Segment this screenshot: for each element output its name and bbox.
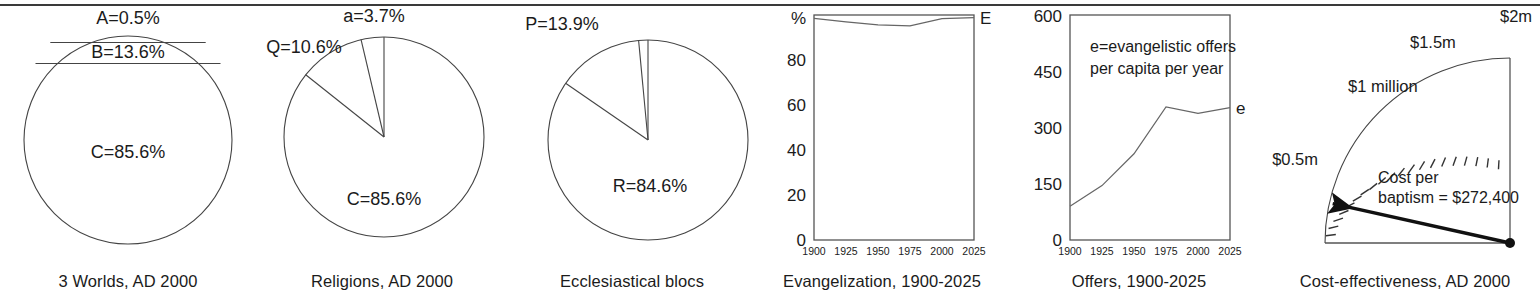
y-tick-80: 80 <box>787 51 806 70</box>
y-tick-20: 20 <box>787 186 806 205</box>
gauge-label-0-5m: $0.5m <box>1272 150 1318 168</box>
three-worlds-diagram: A=0.5% B=13.6% C=85.6% <box>0 0 256 270</box>
caption-offers: Offers, 1900-2025 <box>1008 272 1270 291</box>
panel-three-worlds: A=0.5% B=13.6% C=85.6% 3 Worlds, AD 2000 <box>0 0 256 301</box>
x-tick-1975: 1975 <box>1154 245 1178 257</box>
three-worlds-circle <box>24 36 232 244</box>
x-tick-1950: 1950 <box>866 245 890 257</box>
evangelization-series-line <box>814 18 974 26</box>
y-tick-40: 40 <box>787 141 806 160</box>
note-line-2: per capita per year <box>1090 60 1224 77</box>
label-q: Q=10.6% <box>266 37 342 57</box>
gauge-label-1-5m: $1.5m <box>1410 33 1456 51</box>
label-b: B=13.6% <box>91 42 165 62</box>
caption-religions: Religions, AD 2000 <box>256 272 508 291</box>
x-tick-2000: 2000 <box>930 245 954 257</box>
series-label-e: e <box>1236 99 1245 118</box>
cost-effectiveness-gauge: $0.5m $1 million $1.5m $2m Cost per bapt… <box>1270 0 1540 270</box>
label-a: a=3.7% <box>343 6 405 26</box>
x-tick-1950: 1950 <box>1122 245 1146 257</box>
y-tick-60: 60 <box>787 96 806 115</box>
gauge-label-1-million: $1 million <box>1348 77 1418 95</box>
slice-divider-thin-p <box>639 40 648 140</box>
x-tick-2025: 2025 <box>962 245 986 257</box>
y-axis-unit: % <box>791 9 806 28</box>
gauge-pivot-dot <box>1505 238 1515 248</box>
panel-offers: 600 450 300 150 0 e=evangelistic offers … <box>1008 0 1270 301</box>
caption-evangelization: Evangelization, 1900-2025 <box>756 272 1008 291</box>
note-line-1: e=evangelistic offers <box>1090 38 1236 55</box>
offers-series-line <box>1070 107 1230 206</box>
cost-readout-line-1: Cost per <box>1378 169 1439 186</box>
panel-religions: a=3.7% Q=10.6% C=85.6% Religions, AD 200… <box>256 0 508 301</box>
label-r: R=84.6% <box>613 176 688 196</box>
slice-divider-q-c <box>306 75 384 137</box>
offers-line-chart: 600 450 300 150 0 e=evangelistic offers … <box>1008 0 1270 270</box>
x-tick-1900: 1900 <box>802 245 826 257</box>
x-tick-1925: 1925 <box>1090 245 1114 257</box>
caption-eccl-blocs: Ecclesiastical blocs <box>508 272 756 291</box>
panel-cost-effectiveness: $0.5m $1 million $1.5m $2m Cost per bapt… <box>1270 0 1540 301</box>
figure-root: A=0.5% B=13.6% C=85.6% 3 Worlds, AD 2000… <box>0 0 1540 301</box>
label-p: P=13.9% <box>525 14 599 34</box>
plot-frame <box>814 15 974 240</box>
x-tick-2000: 2000 <box>1186 245 1210 257</box>
evangelization-line-chart: % 0 20 40 60 80 E 1900 1925 1950 1975 20… <box>756 0 1008 270</box>
gauge-needle <box>1333 204 1510 243</box>
slice-divider-p-r <box>566 83 648 140</box>
caption-cost: Cost-effectiveness, AD 2000 <box>1270 272 1540 291</box>
slice-divider-a-q <box>361 39 384 137</box>
x-tick-1975: 1975 <box>898 245 922 257</box>
series-label-E: E <box>980 9 991 28</box>
caption-three-worlds: 3 Worlds, AD 2000 <box>0 272 256 291</box>
panel-ecclesiastical-blocs: P=13.9% R=84.6% Ecclesiastical blocs <box>508 0 756 301</box>
label-c: C=85.6% <box>347 189 422 209</box>
cost-readout-line-2: baptism = $272,400 <box>1378 189 1519 206</box>
gauge-label-2m: $2m <box>1500 7 1532 25</box>
panel-evangelization: % 0 20 40 60 80 E 1900 1925 1950 1975 20… <box>756 0 1008 301</box>
y-tick-450: 450 <box>1034 63 1062 82</box>
x-tick-2025: 2025 <box>1218 245 1242 257</box>
y-tick-150: 150 <box>1034 175 1062 194</box>
eccl-blocs-pie: P=13.9% R=84.6% <box>508 0 756 270</box>
religions-pie: a=3.7% Q=10.6% C=85.6% <box>256 0 508 270</box>
x-tick-1900: 1900 <box>1058 245 1082 257</box>
y-tick-600: 600 <box>1034 7 1062 26</box>
label-c: C=85.6% <box>91 142 166 162</box>
y-tick-300: 300 <box>1034 119 1062 138</box>
x-tick-1925: 1925 <box>834 245 858 257</box>
label-a: A=0.5% <box>96 8 160 28</box>
